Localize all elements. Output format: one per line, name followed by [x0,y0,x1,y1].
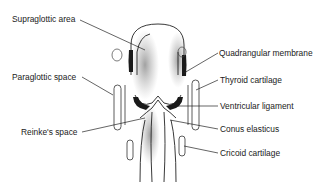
label-paraglottic-space: Paraglottic space [12,72,76,82]
label-conus-elasticus: Conus elasticus [220,124,279,134]
label-ventricular-ligament: Ventricular ligament [220,101,294,111]
label-reinkes-space: Reinke's space [21,127,78,137]
label-quadrangular-membrane: Quadrangular membrane [219,48,313,58]
label-cricoid-cartilage: Cricoid cartilage [220,148,280,158]
larynx-diagram [0,0,328,188]
ventricular-fold-shape [133,97,183,110]
label-thyroid-cartilage: Thyroid cartilage [220,75,282,85]
label-supraglottic-area: Supraglottic area [12,14,75,24]
